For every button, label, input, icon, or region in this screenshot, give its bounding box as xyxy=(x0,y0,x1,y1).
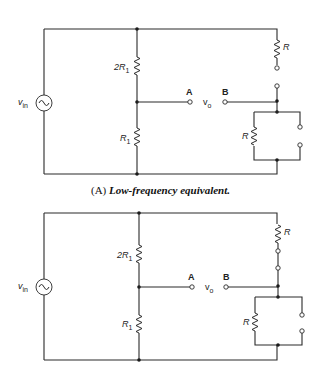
open-switch-terminal xyxy=(275,66,279,70)
resistor-2r1-label: 2R1 xyxy=(114,62,129,74)
circuit-b xyxy=(36,211,304,362)
source-label: vin xyxy=(18,281,28,293)
output-label: vo xyxy=(205,282,213,294)
resistor-2r1-label: 2R1 xyxy=(117,250,132,262)
resistor-2r1 xyxy=(136,245,142,263)
resistor-2r1 xyxy=(134,57,140,75)
series-resistor-label: R xyxy=(283,42,290,52)
resistor-parallel-r xyxy=(251,127,257,145)
figure-caption: (A) Low-frequency equivalent. xyxy=(0,184,321,196)
terminal-b-label: B xyxy=(222,87,229,97)
terminal-b-label: B xyxy=(223,272,230,282)
parallel-resistor-label: R xyxy=(242,131,249,141)
output-label: vo xyxy=(203,97,211,109)
circuit-a xyxy=(36,27,302,176)
resistor-r1-label: R1 xyxy=(120,133,130,145)
source-label: vin xyxy=(18,97,28,109)
resistor-parallel-r xyxy=(252,313,258,331)
resistor-series-r xyxy=(274,40,280,58)
series-resistor-label: R xyxy=(284,227,291,237)
resistor-r1-label: R1 xyxy=(122,319,132,331)
terminal-a xyxy=(188,100,192,104)
terminal-a-label: A xyxy=(186,87,193,97)
resistor-r1 xyxy=(134,128,140,146)
resistor-series-r xyxy=(275,225,281,243)
bottom-rail xyxy=(44,345,277,360)
parallel-resistor-label: R xyxy=(243,317,250,327)
top-rail xyxy=(44,213,277,224)
terminal-a xyxy=(190,285,194,289)
bottom-rail xyxy=(44,160,277,174)
top-rail xyxy=(44,29,277,40)
terminal-a-label: A xyxy=(188,272,195,282)
resistor-r1 xyxy=(136,315,142,333)
open-switch-terminal xyxy=(275,84,279,88)
terminal-b xyxy=(224,285,228,289)
terminal-b xyxy=(223,100,227,104)
